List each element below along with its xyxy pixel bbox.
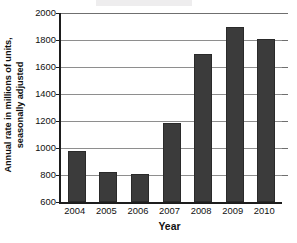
- bar-slot: [187, 13, 219, 202]
- bar-slot: [219, 13, 251, 202]
- bar-2006: [131, 174, 149, 202]
- x-axis-tick-label: 2005: [91, 205, 123, 219]
- y-axis-tick-label: 1000: [35, 143, 56, 153]
- bar-slot: [250, 13, 282, 202]
- x-axis-title: Year: [59, 221, 280, 232]
- bar-slot: [124, 13, 156, 202]
- bar-2009: [226, 27, 244, 203]
- bar-2010: [257, 39, 275, 202]
- y-axis-tick-mark-right: [282, 175, 288, 176]
- x-axis-tick-label: 2006: [122, 205, 154, 219]
- y-axis-tick-label: 2000: [35, 8, 56, 18]
- y-axis-tick-label: 600: [40, 197, 56, 207]
- bar-2004: [68, 151, 86, 202]
- y-axis-tick-label: 800: [40, 170, 56, 180]
- x-axis-tick-label: 2004: [59, 205, 91, 219]
- y-axis-tick-mark: [56, 202, 61, 203]
- y-axis-tick-labels: 600800100012001400160018002000: [26, 7, 58, 204]
- y-axis-tick-label: 1400: [35, 89, 56, 99]
- y-axis-tick-mark-right: [282, 40, 288, 41]
- x-axis-tick-label: 2008: [185, 205, 217, 219]
- x-axis-tick-label: 2009: [217, 205, 249, 219]
- bar-slot: [61, 13, 93, 202]
- y-axis-tick-mark-right: [282, 148, 288, 149]
- y-axis-title: Annual rate in millions of units, season…: [0, 0, 28, 210]
- y-axis-tick-label: 1600: [35, 62, 56, 72]
- y-axis-tick-label: 1800: [35, 35, 56, 45]
- y-axis-tick-mark-right: [282, 121, 288, 122]
- y-axis-tick-mark-right: [282, 67, 288, 68]
- bar-slot: [93, 13, 125, 202]
- bar-2008: [194, 54, 212, 203]
- bar-slot: [156, 13, 188, 202]
- x-axis-tick-label: 2007: [154, 205, 186, 219]
- bar-2007: [163, 123, 181, 202]
- y-axis-tick-mark-right: [282, 94, 288, 95]
- bar-series: [61, 13, 282, 202]
- x-axis-tick-label: 2010: [248, 205, 280, 219]
- y-axis-title-line-2: seasonally adjusted: [14, 37, 26, 172]
- scan-artifact: [96, 0, 192, 6]
- bar-2005: [99, 172, 117, 202]
- y-axis-title-line-1: Annual rate in millions of units,: [3, 37, 15, 172]
- x-axis-tick-labels: 2004200520062007200820092010: [59, 205, 280, 219]
- y-axis-tick-label: 1200: [35, 116, 56, 126]
- bar-chart: Annual rate in millions of units, season…: [0, 0, 297, 243]
- plot-area: [59, 13, 282, 204]
- y-axis-tick-mark-right: [282, 13, 288, 14]
